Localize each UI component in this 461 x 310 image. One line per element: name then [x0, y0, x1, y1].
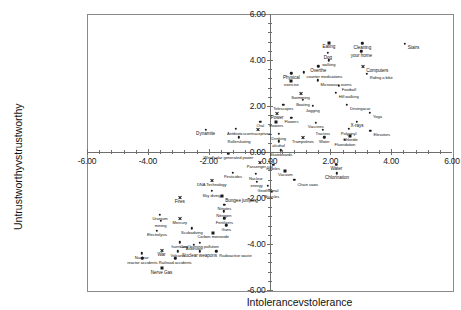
x-tick: [87, 149, 88, 155]
x-tick: [428, 150, 429, 154]
x-tick: [403, 150, 404, 154]
point-label: Sky diving: [203, 194, 221, 198]
x-tick: [355, 150, 356, 154]
y-tick: [267, 60, 273, 61]
point-label: Swimming: [291, 96, 309, 100]
x-tick: [379, 150, 380, 154]
x-tick-label: 6.00: [444, 156, 460, 166]
y-tick: [268, 23, 272, 24]
point-label: alcohol: [272, 144, 285, 148]
y-tick: [268, 97, 272, 98]
point-label: DNA Technology: [197, 183, 227, 187]
y-tick: [268, 262, 272, 263]
y-axis-title: Untrustworthyvstrustworthy: [12, 103, 24, 230]
point-label: your home: [351, 54, 372, 59]
x-tick: [343, 150, 344, 154]
point-label: Eating: [322, 45, 335, 50]
point-label: Drivingacar: [350, 107, 370, 111]
point-label: Jogging: [306, 109, 320, 113]
y-tick: [268, 143, 272, 144]
y-tick-label: -4.00: [236, 239, 266, 249]
scatter-chart: -6.00-4.00-2.000.002.004.006.006.004.002…: [0, 0, 461, 310]
x-tick: [221, 150, 222, 154]
y-tick: [268, 180, 272, 181]
point-label: mowers: [269, 124, 283, 128]
x-tick: [99, 150, 100, 154]
point-label: Hill walking: [339, 95, 359, 99]
point-label: Chain saws: [297, 183, 318, 187]
x-tick: [330, 149, 331, 155]
x-tick-label: -6.00: [78, 156, 96, 166]
x-tick: [136, 150, 137, 154]
x-tick-label: 4.00: [383, 156, 399, 166]
y-tick: [268, 78, 272, 79]
point-label: Boating: [296, 103, 310, 107]
point-label: Geothermal: [258, 189, 279, 193]
point-label: reactor accidents: [127, 261, 157, 265]
y-tick: [268, 226, 272, 227]
y-tick: [267, 290, 273, 291]
point-label: Flowers: [284, 120, 298, 124]
point-label: Bungee jumping: [225, 199, 258, 204]
point-label: Riding a bike: [370, 76, 393, 80]
data-point: [221, 195, 224, 198]
point-label: exercise: [284, 83, 299, 87]
x-tick: [367, 150, 368, 154]
y-tick-label: -6.00: [236, 285, 266, 295]
point-label: mobiles: [266, 167, 280, 171]
y-tick: [268, 207, 272, 208]
point-label: walking: [322, 63, 335, 67]
y-tick: [268, 51, 272, 52]
y-tick: [268, 216, 272, 217]
point-label: counter medications: [307, 75, 343, 79]
point-label: Water: [319, 140, 330, 144]
y-tick: [267, 106, 273, 107]
point-label: Computers: [366, 69, 388, 74]
point-label: Nerve Gas: [151, 271, 173, 276]
point-label: Antibiotics: [227, 132, 245, 136]
point-label: War: [157, 253, 165, 258]
point-label: X-rays: [351, 124, 364, 129]
y-tick-label: 2.00: [236, 101, 266, 111]
point-label: Dynamite: [196, 132, 215, 137]
point-label: Elevators: [373, 133, 390, 137]
x-tick: [440, 150, 441, 154]
point-label: Vacuum: [278, 173, 292, 177]
point-label: Rollerskating: [228, 140, 251, 144]
point-label: Bicycles: [265, 195, 280, 199]
point-label: Carbon monoxide: [197, 235, 229, 239]
y-tick: [268, 253, 272, 254]
point-label: Chlorination: [325, 176, 349, 181]
y-tick-label: 4.00: [236, 55, 266, 65]
y-tick: [268, 281, 272, 282]
point-label: Mercury: [173, 221, 187, 225]
x-tick: [184, 150, 185, 154]
x-tick: [197, 150, 198, 154]
x-tick: [111, 150, 112, 154]
point-label: Cleaning: [353, 46, 371, 51]
x-tick: [209, 149, 210, 155]
x-tick: [294, 150, 295, 154]
x-tick: [306, 150, 307, 154]
point-label: Railroad accidents: [159, 261, 192, 265]
point-label: Yoga: [373, 115, 382, 119]
x-tick: [160, 150, 161, 154]
x-axis-title: Intolerancevstolerance: [247, 296, 353, 308]
point-label: Stairs: [408, 46, 419, 51]
x-tick: [391, 149, 392, 155]
point-label: Radioactive waste: [219, 254, 251, 258]
point-label: Football: [342, 88, 356, 92]
point-label: Fires: [175, 200, 185, 205]
x-tick: [318, 150, 319, 154]
y-tick: [267, 244, 273, 245]
x-tick: [124, 150, 125, 154]
x-tick: [172, 150, 173, 154]
y-tick: [268, 32, 272, 33]
point-label: Skateboards: [270, 153, 292, 157]
y-tick: [268, 42, 272, 43]
point-label: Telescopes: [273, 107, 293, 111]
point-label: Fluoridation: [335, 143, 356, 147]
point-label: Nuclear weapons: [182, 254, 217, 259]
x-tick: [233, 150, 234, 154]
y-tick: [268, 69, 272, 70]
